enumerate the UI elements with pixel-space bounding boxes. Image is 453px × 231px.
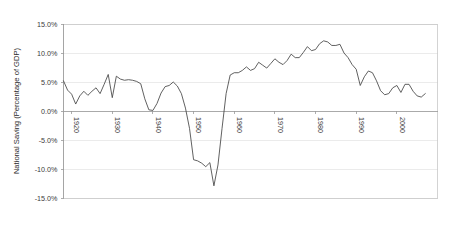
y-axis-title: National Saving (Percentage of GDP): [12, 47, 21, 174]
x-axis-tick-label: 1950: [194, 117, 203, 133]
x-axis-tick-label: 1960: [235, 117, 244, 133]
x-axis-tick-label: 1930: [113, 117, 122, 133]
x-axis-tick-label: 1990: [357, 117, 366, 133]
x-axis-tick-label: 1970: [276, 117, 285, 133]
y-axis-tick-label: 10.0%: [37, 49, 58, 58]
y-axis-tick-label: 5.0%: [41, 78, 58, 87]
y-axis-tick-label: 15.0%: [37, 20, 58, 29]
chart-container: 15.0%10.0%5.0%0.0%-5.0%-10.0%-15.0% 1920…: [0, 0, 453, 231]
line-chart: 15.0%10.0%5.0%0.0%-5.0%-10.0%-15.0% 1920…: [0, 0, 453, 231]
x-axis-tick-label: 1920: [72, 117, 81, 133]
y-axis-tick-label: -5.0%: [39, 136, 58, 145]
x-axis-tick-label: 2000: [398, 117, 407, 133]
y-axis-tick-label: -10.0%: [35, 165, 58, 174]
y-axis-title-text: National Saving (Percentage of GDP): [12, 47, 21, 174]
y-axis-tick-label: -15.0%: [35, 194, 58, 203]
x-axis-tick-label: 1980: [316, 117, 325, 133]
x-axis-tick-label: 1940: [154, 117, 163, 133]
chart-background: [0, 0, 453, 231]
y-axis-tick-label: 0.0%: [41, 107, 58, 116]
